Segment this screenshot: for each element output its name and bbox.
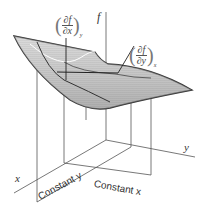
y-axis	[106, 140, 195, 157]
f-axis-label: f	[97, 10, 100, 25]
x-axis-label: x	[15, 172, 20, 184]
partial-f-partial-y-label: (∂f∂y)x	[129, 44, 156, 68]
y-axis-label: y	[184, 141, 189, 153]
surface	[14, 36, 192, 109]
partial-f-partial-x-label: (∂f∂x)y	[55, 14, 82, 38]
